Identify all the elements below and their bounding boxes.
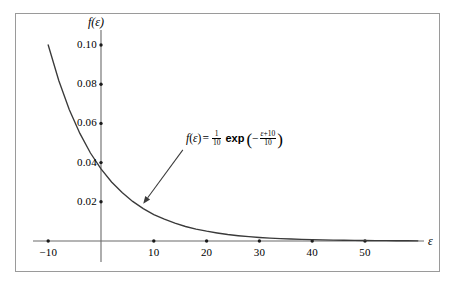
figure-container: f(ε) ε 0.020.040.060.080.10 −10102030405… (0, 0, 455, 290)
formula-minus-sign: − (252, 132, 259, 144)
x-tick-label: 50 (354, 246, 376, 258)
x-tick-label: 10 (143, 246, 165, 258)
y-tick-label: 0.06 (64, 116, 97, 128)
x-tick-label: 40 (301, 246, 323, 258)
formula-arg-close: ) (198, 132, 202, 144)
formula-coef-numerator: 1 (212, 130, 222, 138)
x-tick-label: −10 (37, 246, 59, 258)
formula-exponent-denominator: 10 (260, 138, 277, 147)
x-tick-dot (258, 239, 261, 242)
y-tick-dot (99, 83, 102, 86)
formula-paren-close: ) (277, 130, 283, 149)
y-tick-dot (99, 161, 102, 164)
formula-coefficient: 110 (212, 130, 222, 147)
y-tick-dot (99, 200, 102, 203)
x-tick-label: 30 (248, 246, 270, 258)
x-tick-dot (205, 239, 208, 242)
y-tick-label: 0.10 (64, 38, 97, 50)
y-tick-dot (99, 43, 102, 46)
y-axis-label: f(ε) (88, 15, 104, 30)
annotation-arrow (143, 150, 183, 204)
formula-exp-label: exp (225, 132, 244, 144)
x-tick-label: 20 (196, 246, 218, 258)
formula-coef-denominator: 10 (212, 138, 222, 147)
y-tick-label: 0.02 (64, 195, 97, 207)
y-tick-dot (99, 122, 102, 125)
formula-exponent-fraction: ε+1010 (260, 130, 277, 147)
formula-annotation: f(ε)=110exp(−ε+1010) (186, 130, 283, 150)
x-tick-dot (152, 239, 155, 242)
formula-exponent-numerator: ε+10 (260, 130, 277, 138)
y-tick-label: 0.08 (64, 77, 97, 89)
y-tick-label: 0.04 (64, 156, 97, 168)
x-axis-label: ε (428, 234, 433, 249)
x-tick-dot (47, 239, 50, 242)
formula-equals: = (202, 132, 209, 144)
formula-exponent-offset: +10 (264, 129, 276, 138)
